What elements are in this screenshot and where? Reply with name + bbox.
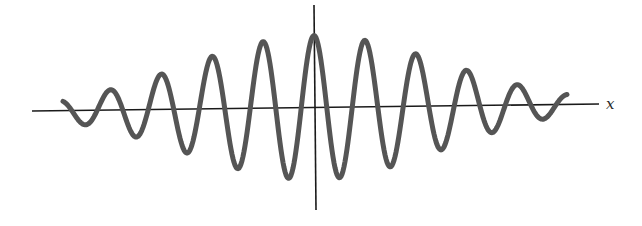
wave-packet-plot: x [0,0,642,226]
x-axis-label: x [606,95,615,113]
